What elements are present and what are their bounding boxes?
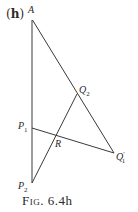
- point-label-Q1prime: Q′1: [116, 151, 125, 165]
- line-P1-Q1prime: [32, 128, 114, 153]
- panel-label: (h): [6, 8, 24, 20]
- point-label-Q2: Q2: [79, 85, 90, 98]
- point-label-P1: P1: [18, 121, 28, 134]
- figure-caption: Fig. 6.4h: [22, 194, 72, 207]
- point-R-name: R: [55, 138, 61, 149]
- point-P1-sub: 1: [24, 126, 28, 134]
- caption-prefix: Fig.: [22, 193, 44, 208]
- point-label-R: R: [55, 139, 61, 149]
- point-Q1prime-sub: 1: [122, 157, 126, 165]
- geometry-figure: (h) A Q2 P1 R Q′1 P2 Fig. 6.4h: [0, 0, 138, 212]
- point-label-A: A: [28, 5, 34, 15]
- point-Q2-sub: 2: [86, 90, 90, 98]
- point-A-name: A: [28, 4, 34, 15]
- line-A-Q1prime: [33, 20, 115, 153]
- caption-number: 6.4h: [48, 193, 73, 208]
